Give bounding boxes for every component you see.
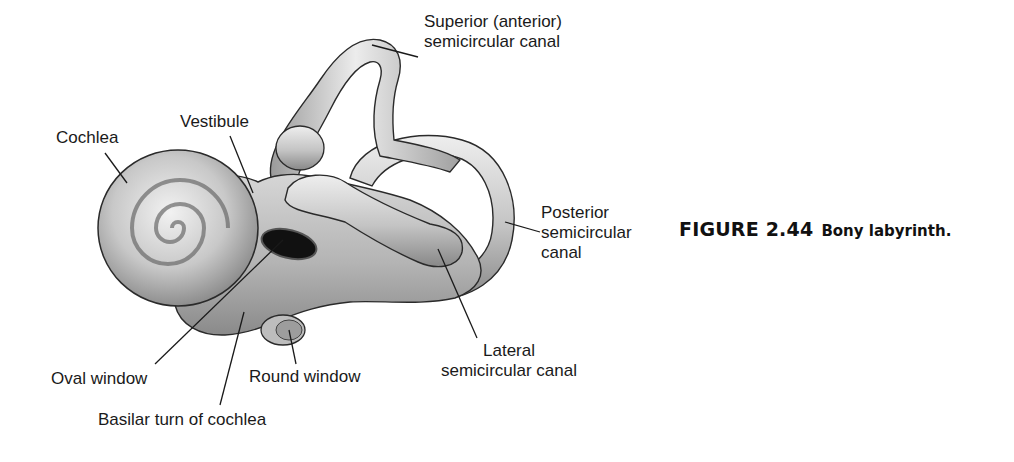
figure-title: Bony labyrinth.: [821, 222, 951, 240]
round-window-shape: [261, 315, 305, 345]
bony-labyrinth-figure: Superior (anterior) semicircular canal C…: [0, 0, 1014, 462]
label-basilar-turn: Basilar turn of cochlea: [98, 410, 266, 430]
cochlea-shape: [98, 150, 258, 306]
label-oval-window: Oval window: [51, 369, 147, 389]
figure-number: FIGURE 2.44: [679, 218, 813, 240]
label-lateral-line1: Lateral: [424, 341, 594, 361]
label-cochlea: Cochlea: [56, 128, 118, 148]
label-posterior-line2: semicircular: [541, 223, 632, 243]
label-posterior-canal: Posterior semicircular canal: [541, 203, 632, 263]
label-lateral-line2: semicircular canal: [424, 361, 594, 381]
label-lateral-canal: Lateral semicircular canal: [424, 341, 594, 381]
label-superior-canal: Superior (anterior) semicircular canal: [424, 12, 562, 52]
label-posterior-line1: Posterior: [541, 203, 632, 223]
ampulla-shape: [276, 126, 324, 170]
label-posterior-line3: canal: [541, 243, 632, 263]
figure-caption: FIGURE 2.44Bony labyrinth.: [679, 218, 951, 240]
label-superior-line1: Superior (anterior): [424, 12, 562, 32]
label-superior-line2: semicircular canal: [424, 32, 562, 52]
label-round-window: Round window: [249, 367, 361, 387]
label-vestibule: Vestibule: [180, 112, 249, 132]
